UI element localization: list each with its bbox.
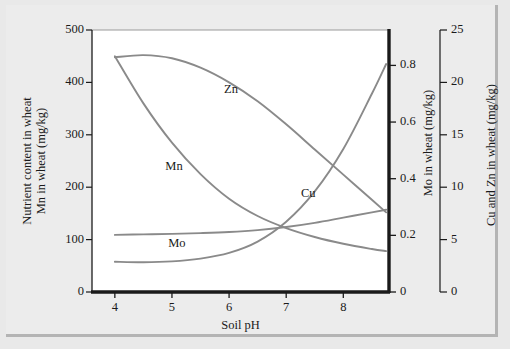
cuzn-tick-label-25: 25 <box>451 23 464 36</box>
left-tick-label-500: 500 <box>44 23 84 36</box>
curve-label-mo: Mo <box>166 237 188 250</box>
left-axis-ticks <box>86 30 92 292</box>
curve-label-mn: Mn <box>163 160 185 173</box>
x-tick-label-4: 4 <box>105 301 125 314</box>
x-tick-label-5: 5 <box>162 301 182 314</box>
cuzn-axis-ticks <box>440 30 447 292</box>
mo-axis-title: Mo in wheat (mg/kg) <box>421 12 435 274</box>
x-tick-label-7: 7 <box>276 301 296 314</box>
left-axis-title-line1: Nutrient content in wheat <box>20 30 34 292</box>
cuzn-tick-label-0: 0 <box>451 285 457 298</box>
mo-tick-label-0_2: 0.2 <box>400 228 416 241</box>
left-tick-label-200: 200 <box>44 180 84 193</box>
x-tick-label-8: 8 <box>333 301 353 314</box>
cuzn-tick-label-15: 15 <box>451 128 464 141</box>
cuzn-tick-label-20: 20 <box>451 75 464 88</box>
mo-tick-label-0: 0 <box>400 285 406 298</box>
x-tick-label-6: 6 <box>219 301 239 314</box>
left-tick-label-100: 100 <box>44 233 84 246</box>
curve-label-cu: Cu <box>297 187 319 200</box>
cuzn-tick-label-5: 5 <box>451 233 457 246</box>
x-axis-title: Soil pH <box>201 318 281 332</box>
mo-tick-label-0_8: 0.8 <box>400 58 416 71</box>
left-tick-label-400: 400 <box>44 75 84 88</box>
left-axis-title: Nutrient content in wheatMn in wheat (mg… <box>20 30 48 292</box>
left-tick-label-0: 0 <box>44 285 84 298</box>
cuzn-axis-title: Cu and Zn in wheat (mg/kg) <box>484 24 498 286</box>
curve-label-zn: Zn <box>220 83 242 96</box>
mo-tick-label-0_4: 0.4 <box>400 172 416 185</box>
left-axis-title-line2: Mn in wheat (mg/kg) <box>34 30 48 292</box>
left-tick-label-300: 300 <box>44 128 84 141</box>
cuzn-tick-label-10: 10 <box>451 180 464 193</box>
mo-tick-label-0_6: 0.6 <box>400 115 416 128</box>
chart-plot-area: 45678Soil pH0100200300400500Nutrient con… <box>0 0 510 349</box>
plot-background <box>92 30 389 292</box>
figure-container: 45678Soil pH0100200300400500Nutrient con… <box>0 0 510 349</box>
